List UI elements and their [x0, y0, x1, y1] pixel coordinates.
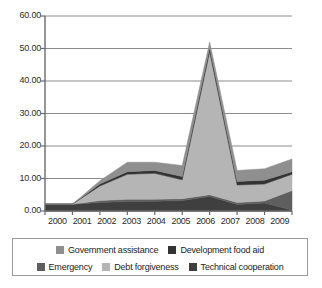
legend-label: Emergency: [49, 262, 93, 272]
legend-item[interactable]: Debt forgiveness: [102, 262, 178, 272]
legend-swatch-icon: [102, 263, 110, 271]
x-tick-label: 2003: [119, 215, 144, 229]
area-chart: 0.0010.0020.0030.0040.0050.0060.00 20002…: [0, 0, 322, 288]
x-axis-labels: 2000200120022003200420052006200720082009: [45, 215, 292, 229]
legend-item[interactable]: Emergency: [37, 262, 93, 272]
x-tick-label: 2008: [243, 215, 268, 229]
chart-legend: Government assistanceDevelopment food ai…: [12, 238, 308, 276]
legend-row: Government assistanceDevelopment food ai…: [17, 241, 303, 258]
legend-label: Technical cooperation: [201, 262, 284, 272]
legend-swatch-icon: [37, 263, 45, 271]
x-tick-label: 2001: [70, 215, 95, 229]
x-tick-label: 2002: [94, 215, 119, 229]
x-tick-label: 2007: [218, 215, 243, 229]
legend-swatch-icon: [189, 263, 197, 271]
legend-label: Debt forgiveness: [114, 262, 178, 272]
x-tick-label: 2005: [169, 215, 194, 229]
x-tick-label: 2000: [45, 215, 70, 229]
legend-item[interactable]: Development food aid: [168, 245, 264, 255]
legend-swatch-icon: [168, 246, 176, 254]
legend-row: EmergencyDebt forgivenessTechnical coope…: [17, 258, 303, 275]
legend-label: Government assistance: [68, 245, 158, 255]
legend-item[interactable]: Government assistance: [56, 245, 158, 255]
x-tick-label: 2009: [267, 215, 292, 229]
x-tick-label: 2004: [144, 215, 169, 229]
legend-swatch-icon: [56, 246, 64, 254]
legend-item[interactable]: Technical cooperation: [189, 262, 284, 272]
legend-label: Development food aid: [180, 245, 264, 255]
x-tick-label: 2006: [193, 215, 218, 229]
